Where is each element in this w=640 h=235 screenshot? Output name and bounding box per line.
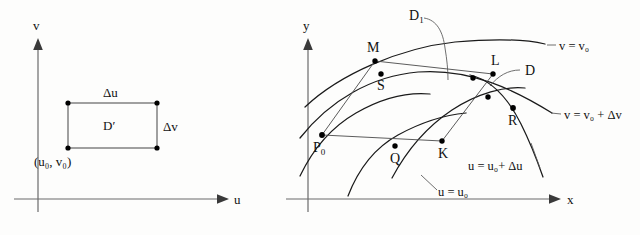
left-panel-uv-plane: v u Δu Δv D′ (u₀, v₀) xyxy=(14,18,241,212)
point-dot-q xyxy=(392,143,397,148)
v-axis-arrowhead xyxy=(33,38,43,50)
parallelogram-edge-k-p0 xyxy=(322,135,442,141)
corner-dot-top-right xyxy=(154,100,159,105)
delta-v-label: Δv xyxy=(163,119,178,134)
v0dv-label-leader xyxy=(551,113,561,114)
point-dot-r xyxy=(510,105,516,111)
curve-v-equals-v0 xyxy=(305,40,545,107)
region-label-d1: D1 xyxy=(409,8,424,25)
corner-dot-bottom-left xyxy=(65,145,70,150)
region-label-d: D xyxy=(525,63,535,78)
point-label-s: S xyxy=(377,78,385,93)
curve-label-v-top: v = v₀ xyxy=(559,39,589,53)
point-dot-s xyxy=(378,71,383,76)
point-dot-m xyxy=(372,58,377,63)
region-d-prime-label: D′ xyxy=(103,118,115,133)
u0-label-leader xyxy=(421,175,437,190)
point-dot-l xyxy=(490,71,495,76)
x-axis-label: x xyxy=(567,192,574,207)
point-label-k: K xyxy=(438,146,448,161)
point-label-l: L xyxy=(491,53,500,68)
figure-canvas: v u Δu Δv D′ (u₀, v₀) y x xyxy=(0,0,640,235)
math-diagram: v u Δu Δv D′ (u₀, v₀) y x xyxy=(0,0,640,235)
u-axis-label: u xyxy=(234,192,241,207)
v-axis-label: v xyxy=(33,18,40,33)
u-axis-arrowhead xyxy=(217,194,229,203)
corner-coordinate-label: (u₀, v₀) xyxy=(34,154,71,169)
x-axis-arrowhead xyxy=(549,194,561,203)
y-axis-label: y xyxy=(303,18,310,33)
point-dot-p0 xyxy=(319,132,325,138)
d1-leader-line xyxy=(424,18,448,80)
parallelogram-edge-l-k xyxy=(442,74,493,141)
right-panel-xy-plane: y x xyxy=(286,8,622,212)
curve-label-v-bottom: v = v₀ + Δv xyxy=(564,108,622,122)
u0du-label-leader xyxy=(531,143,540,168)
curve-label-u-right: u = u₀+ Δu xyxy=(468,159,523,173)
point-dot-unlabeled-lower xyxy=(485,94,490,99)
point-label-r: R xyxy=(508,113,518,128)
point-dot-unlabeled-upper xyxy=(470,75,475,80)
point-label-m: M xyxy=(367,40,380,55)
corner-dot-bottom-right xyxy=(154,145,159,150)
corner-dot-top-left xyxy=(65,100,70,105)
point-label-p0: P0 xyxy=(313,140,326,157)
delta-u-label: Δu xyxy=(103,85,118,100)
curve-label-u-left: u = u₀ xyxy=(438,185,468,199)
point-label-q: Q xyxy=(390,151,400,166)
y-axis-arrowhead xyxy=(303,38,313,50)
parallelogram-edge-p0-m xyxy=(322,61,375,135)
point-dot-k xyxy=(439,138,444,143)
